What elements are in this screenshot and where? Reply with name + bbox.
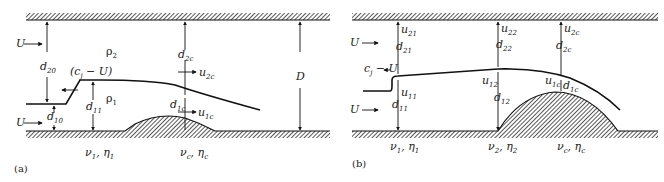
d20-label: d20 [40, 60, 57, 75]
U-bottom-label-a: U [16, 116, 26, 129]
d22-label: d22 [496, 38, 513, 53]
panel-b: U U cj − U u21 d21 u11 d11 u22 d22 u12 d… [350, 13, 658, 169]
visc1-label-a: ν1, η1 [85, 146, 114, 161]
front-speed-label-b: cj − U [364, 62, 399, 77]
caption-a: (a) [14, 163, 28, 174]
u1c-label-b: u1c [545, 74, 561, 89]
viscc-label-a: νc, ηc [180, 146, 208, 161]
d2c-label-b: d2c [556, 39, 572, 54]
U-top-label-b: U [350, 36, 360, 49]
u22-label: u22 [501, 22, 518, 37]
d1c-label-a: d1c [170, 98, 186, 113]
d11-label: d11 [86, 100, 102, 115]
u2c-label-a: u2c [199, 66, 215, 81]
u21-label: u21 [401, 23, 417, 38]
D-label: D [295, 70, 305, 83]
U-bottom-label-b: U [350, 103, 360, 116]
rho1-label: ρ1 [106, 92, 117, 107]
visc2-label-b: ν2, η2 [488, 140, 518, 155]
rho2-label: ρ2 [106, 45, 117, 60]
viscc-label-b: νc, ηc [557, 140, 585, 155]
d21-label: d21 [396, 40, 412, 55]
panel-a: U U d20 d10 d11 (cj − U) ρ2 ρ1 d2c d1c u… [14, 13, 330, 174]
visc1-label-b: ν1, η1 [390, 140, 419, 155]
bottom-wall-a [26, 116, 330, 138]
U-top-label-a: U [16, 37, 26, 50]
u12-label: u12 [482, 74, 499, 89]
u11-label: u11 [401, 86, 417, 101]
front-speed-label-a: (cj − U) [70, 65, 112, 80]
top-wall-b [352, 13, 658, 20]
caption-b: (b) [352, 158, 366, 169]
d10-label: d10 [47, 110, 64, 125]
u1c-label-a: u1c [198, 106, 214, 121]
d12-label: d12 [494, 91, 511, 106]
two-layer-flow-diagram: U U d20 d10 d11 (cj − U) ρ2 ρ1 d2c d1c u… [0, 0, 664, 182]
interface-a [26, 80, 260, 110]
d2c-label-a: d2c [178, 48, 194, 63]
u2c-label-b: u2c [564, 22, 580, 37]
top-wall-a [26, 13, 330, 20]
d11-label-b: d11 [392, 98, 408, 113]
